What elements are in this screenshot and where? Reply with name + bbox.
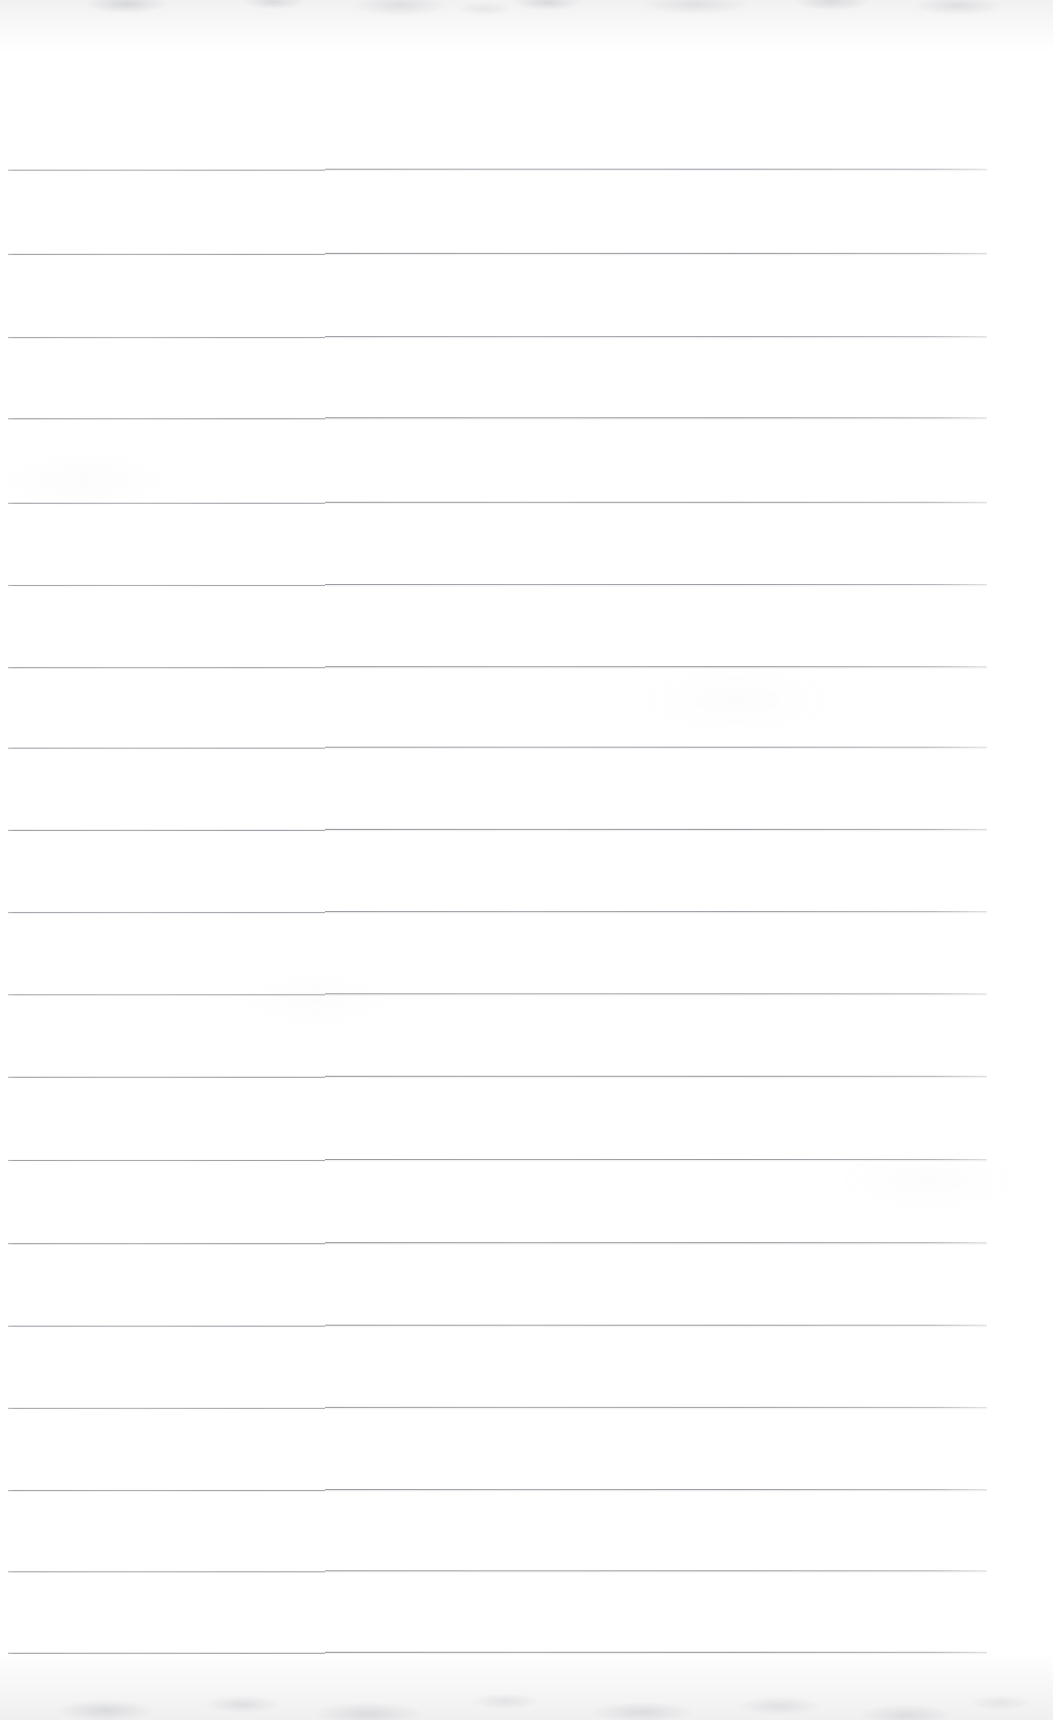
ruled-line-right-segment bbox=[325, 336, 987, 337]
ruled-line bbox=[8, 1652, 987, 1655]
ruled-line-right-segment bbox=[325, 502, 987, 503]
ruled-line-left-segment bbox=[8, 994, 325, 995]
ruled-line-right-segment bbox=[325, 584, 987, 585]
ruled-line bbox=[8, 1570, 987, 1573]
ruled-line-left-segment bbox=[8, 337, 325, 338]
ruled-line bbox=[8, 417, 987, 420]
ruled-line-bleed bbox=[8, 417, 987, 420]
ruled-line-left-segment bbox=[8, 667, 325, 668]
ruled-line-left-segment bbox=[8, 1160, 325, 1161]
ruled-line bbox=[8, 584, 987, 587]
ruled-line-right-segment bbox=[325, 1489, 987, 1490]
ruled-line-bleed bbox=[8, 1652, 987, 1655]
ruled-line bbox=[8, 993, 987, 996]
ruled-line-right-segment bbox=[325, 666, 987, 667]
ruled-line-bleed bbox=[8, 253, 987, 256]
ruled-line-right-segment bbox=[325, 993, 987, 994]
ruled-line-left-segment bbox=[8, 503, 325, 504]
ruled-line bbox=[8, 169, 987, 172]
ruled-line-bleed bbox=[8, 1489, 987, 1492]
ruled-line-bleed bbox=[8, 747, 987, 750]
ruled-line-right-segment bbox=[325, 1325, 987, 1326]
ruled-line-bleed bbox=[8, 1570, 987, 1573]
ruled-line-left-segment bbox=[8, 912, 325, 913]
ruled-line bbox=[8, 1076, 987, 1079]
ruled-line bbox=[8, 1159, 987, 1162]
ruled-line-right-segment bbox=[325, 1159, 987, 1160]
ruled-line bbox=[8, 1325, 987, 1328]
ruled-lines-group bbox=[0, 0, 1053, 1720]
ruled-line-bleed bbox=[8, 1325, 987, 1328]
ruled-line-bleed bbox=[8, 1242, 987, 1245]
ruled-line bbox=[8, 336, 987, 339]
ruled-line-bleed bbox=[8, 1076, 987, 1079]
ruled-line-left-segment bbox=[8, 1077, 325, 1078]
ruled-line-bleed bbox=[8, 666, 987, 669]
ruled-line-left-segment bbox=[8, 170, 325, 171]
ruled-line-right-segment bbox=[325, 1570, 987, 1571]
ruled-line bbox=[8, 253, 987, 256]
ruled-line-left-segment bbox=[8, 830, 325, 831]
ruled-line-left-segment bbox=[8, 1243, 325, 1244]
ruled-line bbox=[8, 1407, 987, 1410]
ruled-line-right-segment bbox=[325, 1652, 987, 1653]
ruled-line bbox=[8, 1242, 987, 1245]
ruled-line-left-segment bbox=[8, 585, 325, 586]
ruled-line-bleed bbox=[8, 336, 987, 339]
ruled-line-right-segment bbox=[325, 1407, 987, 1408]
ruled-line-left-segment bbox=[8, 254, 325, 255]
ruled-line bbox=[8, 666, 987, 669]
ruled-line-bleed bbox=[8, 169, 987, 172]
ruled-line-left-segment bbox=[8, 748, 325, 749]
ruled-line bbox=[8, 911, 987, 914]
ruled-line-left-segment bbox=[8, 418, 325, 419]
ruled-line-bleed bbox=[8, 829, 987, 832]
ruled-line bbox=[8, 829, 987, 832]
ruled-line-left-segment bbox=[8, 1326, 325, 1327]
ruled-line-right-segment bbox=[325, 1076, 987, 1077]
scanned-page bbox=[0, 0, 1053, 1720]
ruled-line-bleed bbox=[8, 1159, 987, 1162]
ruled-line-right-segment bbox=[325, 417, 987, 418]
ruled-line bbox=[8, 747, 987, 750]
ruled-line-bleed bbox=[8, 993, 987, 996]
ruled-line-right-segment bbox=[325, 169, 987, 170]
ruled-line-right-segment bbox=[325, 911, 987, 912]
ruled-line-bleed bbox=[8, 584, 987, 587]
ruled-line-bleed bbox=[8, 1407, 987, 1410]
ruled-line-right-segment bbox=[325, 829, 987, 830]
ruled-line bbox=[8, 1489, 987, 1492]
ruled-line-bleed bbox=[8, 911, 987, 914]
ruled-line bbox=[8, 502, 987, 505]
ruled-line-bleed bbox=[8, 502, 987, 505]
ruled-line-left-segment bbox=[8, 1653, 325, 1654]
ruled-line-right-segment bbox=[325, 1242, 987, 1243]
ruled-line-left-segment bbox=[8, 1408, 325, 1409]
ruled-line-left-segment bbox=[8, 1490, 325, 1491]
ruled-line-left-segment bbox=[8, 1571, 325, 1572]
ruled-line-right-segment bbox=[325, 747, 987, 748]
ruled-line-right-segment bbox=[325, 253, 987, 254]
